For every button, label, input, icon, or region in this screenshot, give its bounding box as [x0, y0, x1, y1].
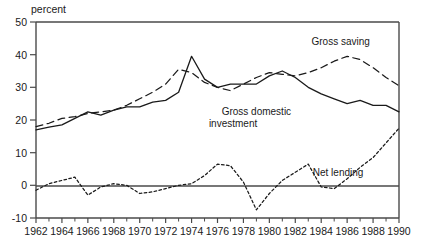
- x-tick-label-1966: 1966: [76, 225, 100, 237]
- annotation-investment: investment: [209, 118, 258, 129]
- x-tick-label-1978: 1978: [232, 225, 256, 237]
- x-tick-label-1972: 1972: [154, 225, 178, 237]
- chart-container: percent 50 40 30 20 10 0 -10: [0, 0, 426, 241]
- y-tick-label-20: 20: [15, 114, 27, 126]
- percent-line-chart: percent 50 40 30 20 10 0 -10: [0, 0, 426, 241]
- x-tick-label-1968: 1968: [102, 225, 126, 237]
- y-tick-label-50: 50: [15, 16, 27, 28]
- x-tick-label-1976: 1976: [206, 225, 230, 237]
- x-tick-label-1984: 1984: [310, 225, 334, 237]
- x-tick-label-1962: 1962: [24, 225, 48, 237]
- x-tick-label-1986: 1986: [335, 225, 359, 237]
- annotation-gross-domestic: Gross domestic: [222, 106, 291, 117]
- annotation-net-lending: Net lending: [313, 167, 364, 178]
- x-tick-label-1980: 1980: [258, 225, 282, 237]
- y-axis-title: percent: [31, 3, 66, 15]
- x-tick-label-1964: 1964: [50, 225, 74, 237]
- x-tick-label-1974: 1974: [180, 225, 204, 237]
- x-tick-label-1970: 1970: [128, 225, 152, 237]
- y-tick-label-10: 10: [15, 147, 27, 159]
- x-tick-label-1982: 1982: [284, 225, 308, 237]
- y-tick-label-30: 30: [15, 81, 27, 93]
- x-axis-tick-labels: 1962196419661968197019721974197619781980…: [24, 225, 411, 237]
- annotation-gross-saving: Gross saving: [311, 36, 369, 47]
- y-tick-label-neg10: -10: [12, 212, 27, 224]
- y-tick-label-0: 0: [21, 179, 27, 191]
- x-tick-label-1988: 1988: [361, 225, 385, 237]
- x-tick-label-1990: 1990: [387, 225, 411, 237]
- y-tick-label-40: 40: [15, 49, 27, 61]
